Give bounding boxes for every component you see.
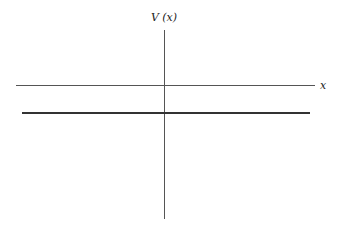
x-axis-label: x [320, 79, 327, 92]
y-axis-label: V (x) [151, 11, 177, 24]
potential-diagram: V (x) x [0, 0, 341, 236]
